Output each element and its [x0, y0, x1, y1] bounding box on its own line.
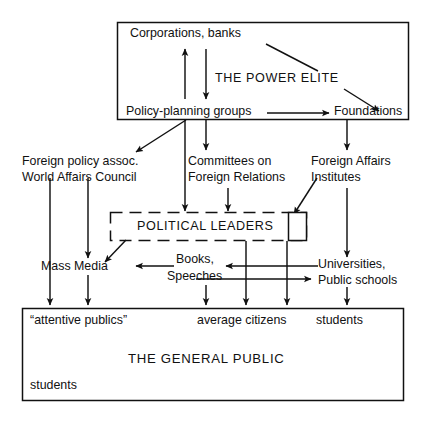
node-foundations: Foundations [334, 104, 402, 119]
power-elite-caption: THE POWER ELITE [215, 71, 339, 86]
segment-average-citizens: average citizens [197, 313, 287, 328]
node-committees-line1: Committees on [188, 154, 271, 169]
node-foreign-affairs-line2: Institutes [311, 170, 361, 185]
node-committees-line2: Foreign Relations [188, 170, 285, 185]
diagram-canvas: Corporations, banks THE POWER ELITE Poli… [0, 0, 431, 421]
line-corporations-to-caption [266, 44, 318, 71]
node-speeches-line2: Speeches [167, 269, 222, 284]
node-foreign-affairs-line1: Foreign Affairs [311, 154, 391, 169]
node-corporations: Corporations, banks [130, 26, 241, 41]
segment-attentive-publics: “attentive publics” [30, 313, 127, 328]
segment-students-top: students [316, 313, 363, 328]
general-public-title: THE GENERAL PUBLIC [128, 351, 284, 367]
political-leaders-side-box [289, 213, 307, 241]
node-policy-planning-groups: Policy-planning groups [126, 104, 251, 119]
node-public-schools-line2: Public schools [318, 273, 397, 288]
node-political-leaders: POLITICAL LEADERS [137, 219, 273, 234]
segment-students-bottom: students [30, 378, 77, 393]
node-universities-line1: Universities, [318, 257, 385, 272]
node-mass-media: Mass Media [41, 259, 108, 274]
arrow-elite-to-foreign-policy-assoc [136, 120, 186, 152]
node-books-line1: Books, [176, 252, 214, 267]
node-world-affairs-council-line2: World Affairs Council [22, 170, 137, 185]
node-foreign-policy-assoc-line1: Foreign policy assoc. [22, 154, 138, 169]
arrow-political-leaders-to-mass-media [105, 240, 126, 262]
